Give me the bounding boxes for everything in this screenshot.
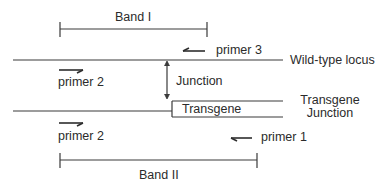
band-ii-bracket — [60, 153, 257, 168]
transgene-junction-label-line1: Transgene — [290, 94, 370, 107]
primer-1-label: primer 1 — [261, 131, 307, 144]
band-ii-label: Band II — [139, 169, 179, 182]
primer-2-bottom-label: primer 2 — [58, 130, 104, 143]
wild-type-locus-label: Wild-type locus — [290, 54, 375, 67]
primer-2-bottom-arrow-icon — [59, 123, 83, 126]
junction-label: Junction — [176, 75, 223, 88]
primer-3-label: primer 3 — [216, 44, 262, 57]
primer-1-arrow-icon — [231, 138, 252, 141]
junction-double-arrow-icon — [165, 61, 170, 99]
transgene-box-label: Transgene — [182, 103, 241, 116]
primer-3-arrow-icon — [183, 48, 205, 51]
band-i-bracket — [60, 22, 207, 37]
transgene-junction-label-line2: Junction — [290, 107, 370, 120]
primer-2-top-arrow-icon — [59, 70, 83, 73]
primer-2-top-label: primer 2 — [58, 76, 104, 89]
band-i-label: Band I — [115, 11, 151, 24]
